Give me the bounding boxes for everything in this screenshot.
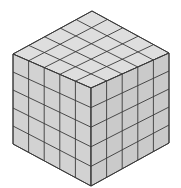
isometric-cube: [0, 0, 181, 188]
cube-diagram: 5×5×5 cube of unit cubes: [0, 0, 181, 188]
